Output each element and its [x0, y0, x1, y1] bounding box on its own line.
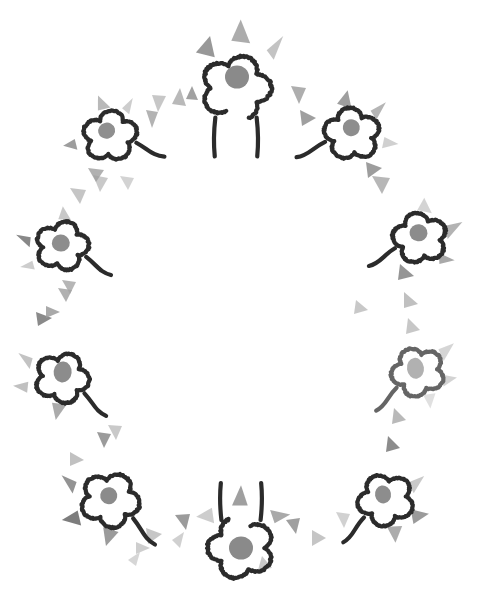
- flower-bottom-center-stem-right: [220, 483, 221, 520]
- flower-bottom-center-stem-left: [261, 483, 262, 520]
- canvas-background: [0, 0, 489, 597]
- flower-top-center-center-dot: [225, 66, 249, 89]
- flower-top-center-stem-right: [257, 118, 258, 157]
- flower-top-center-stem-left: [214, 118, 215, 157]
- flower-bottom-center-center-dot: [229, 537, 253, 560]
- illustration-canvas: [0, 0, 489, 597]
- flower-wreath-artwork: [0, 0, 489, 597]
